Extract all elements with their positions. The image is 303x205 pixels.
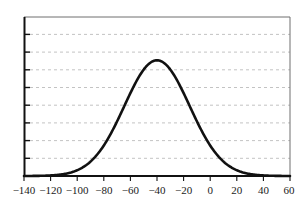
x-tick-label: −40 [148, 184, 166, 196]
chart-container: −140 −120 −100 −80 −60 −40 −20 0 20 40 6… [0, 0, 303, 205]
x-tick-label: −60 [122, 184, 140, 196]
x-tick-label: 0 [207, 184, 213, 196]
x-tick-label: 40 [258, 184, 270, 196]
x-tick-label: −100 [66, 184, 89, 196]
x-tick-label: −80 [95, 184, 113, 196]
x-axis-tick-labels: −140 −120 −100 −80 −60 −40 −20 0 20 40 6… [13, 184, 295, 196]
gaussian-line-chart: −140 −120 −100 −80 −60 −40 −20 0 20 40 6… [0, 0, 303, 205]
x-tick-label: 60 [284, 184, 296, 196]
x-tick-label: −140 [13, 184, 36, 196]
x-tick-label: −20 [175, 184, 193, 196]
plot-background [24, 17, 290, 176]
x-tick-label: 20 [231, 184, 243, 196]
x-tick-label: −120 [39, 184, 62, 196]
